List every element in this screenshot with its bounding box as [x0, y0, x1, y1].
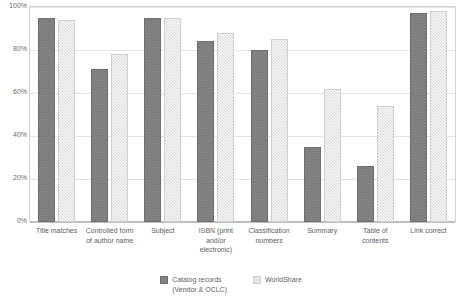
bar[interactable] [164, 18, 181, 222]
bar-group [296, 7, 349, 222]
legend-entry[interactable]: Catalog records (Vendor & OCLC) [160, 275, 227, 294]
legend-swatch-icon [160, 276, 168, 284]
x-axis-tick-label: Subject [136, 226, 189, 255]
bar[interactable] [430, 11, 447, 222]
bar[interactable] [357, 166, 374, 222]
y-axis: 0%20%40%60%80%100% [0, 6, 27, 222]
bar-group [83, 7, 136, 222]
bar-group [136, 7, 189, 222]
bar-group [30, 7, 83, 222]
y-axis-tick-label: 40% [1, 131, 27, 139]
bar-group [402, 7, 455, 222]
bar[interactable] [217, 33, 234, 222]
bar[interactable] [58, 20, 75, 222]
bar-group [243, 7, 296, 222]
y-axis-tick-label: 80% [1, 45, 27, 53]
y-axis-tick-label: 100% [1, 2, 27, 10]
legend-entry[interactable]: WorldShare [253, 275, 302, 294]
bar[interactable] [144, 18, 161, 222]
chart-legend: Catalog records (Vendor & OCLC)WorldShar… [0, 275, 462, 294]
legend-label: Catalog records (Vendor & OCLC) [172, 275, 227, 294]
bar-group [189, 7, 242, 222]
bar[interactable] [91, 69, 108, 222]
x-axis-tick-label: ISBN (print and/or electronic) [189, 226, 242, 255]
x-axis-tick-label: Summary [296, 226, 349, 255]
bars-layer [30, 7, 455, 222]
x-axis: Title matchesControlled form of author n… [30, 226, 455, 255]
bar[interactable] [251, 50, 268, 222]
legend-label: WorldShare [265, 275, 302, 285]
bar[interactable] [38, 18, 55, 222]
x-axis-tick-label: Link correct [402, 226, 455, 255]
y-axis-tick-label: 60% [1, 88, 27, 96]
y-axis-tick-label: 0% [1, 217, 27, 225]
bar[interactable] [324, 89, 341, 222]
bar[interactable] [271, 39, 288, 222]
bar-group [349, 7, 402, 222]
gridline-0% [30, 222, 455, 223]
bar[interactable] [111, 54, 128, 222]
bar[interactable] [377, 106, 394, 222]
x-axis-tick-label: Table of contents [349, 226, 402, 255]
bar[interactable] [410, 13, 427, 222]
x-axis-tick-label: Title matches [30, 226, 83, 255]
bar-chart: 0%20%40%60%80%100% Title matchesControll… [0, 0, 462, 302]
x-axis-tick-label: Classification numbers [243, 226, 296, 255]
legend-swatch-icon [253, 276, 261, 284]
bar[interactable] [304, 147, 321, 222]
y-axis-tick-label: 20% [1, 174, 27, 182]
bar[interactable] [197, 41, 214, 222]
x-axis-tick-label: Controlled form of author name [83, 226, 136, 255]
